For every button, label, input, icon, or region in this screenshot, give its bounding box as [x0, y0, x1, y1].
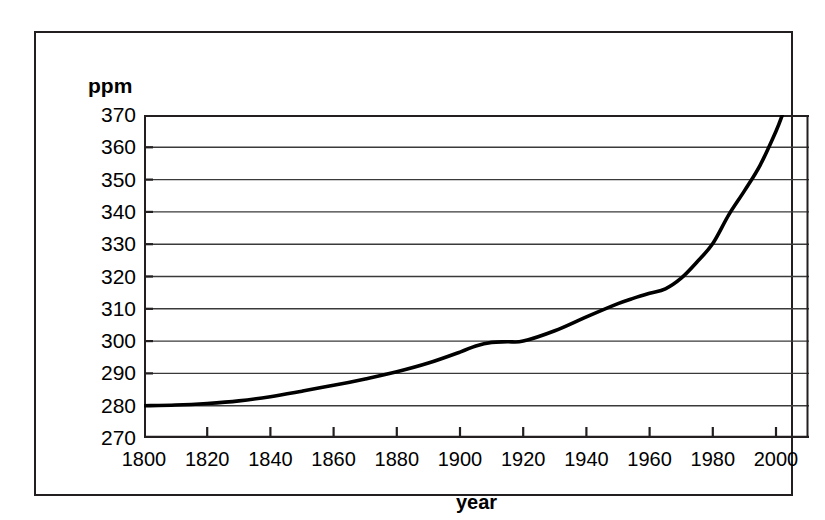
- y-tick-label: 320: [74, 266, 136, 287]
- chart-page: ppm 370360350340330320310300290280270 18…: [0, 0, 825, 520]
- y-axis-unit-label: ppm: [88, 75, 132, 97]
- y-tick-label: 310: [74, 298, 136, 319]
- y-tick-label: 350: [74, 169, 136, 190]
- x-axis-ticks: [144, 427, 776, 437]
- plot-area: [144, 115, 809, 438]
- y-tick-label: 360: [74, 136, 136, 157]
- x-tick-label: 1840: [235, 448, 305, 470]
- x-tick-label: 1880: [362, 448, 432, 470]
- y-tick-label: 300: [74, 330, 136, 351]
- x-tick-label: 1800: [109, 448, 179, 470]
- y-tick-label: 340: [74, 201, 136, 222]
- y-tick-label: 370: [74, 104, 136, 125]
- x-tick-label: 1860: [299, 448, 369, 470]
- x-tick-label: 2000: [741, 448, 811, 470]
- x-tick-label: 1820: [172, 448, 242, 470]
- gridlines: [144, 115, 809, 438]
- y-tick-label: 280: [74, 395, 136, 416]
- x-tick-label: 1980: [678, 448, 748, 470]
- y-axis-tick-labels: 370360350340330320310300290280270: [74, 115, 136, 438]
- chart-frame: ppm 370360350340330320310300290280270 18…: [34, 31, 793, 496]
- line-chart-svg: [144, 115, 809, 438]
- x-axis-tick-labels: 1800182018401860188019001920194019601980…: [144, 448, 809, 474]
- y-tick-label: 270: [74, 427, 136, 448]
- y-tick-label: 290: [74, 362, 136, 383]
- x-tick-label: 1940: [551, 448, 621, 470]
- y-tick-label: 330: [74, 233, 136, 254]
- x-axis-title: year: [144, 491, 809, 513]
- x-tick-label: 1900: [425, 448, 495, 470]
- co2-concentration-curve: [144, 115, 782, 406]
- x-tick-label: 1960: [615, 448, 685, 470]
- x-tick-label: 1920: [488, 448, 558, 470]
